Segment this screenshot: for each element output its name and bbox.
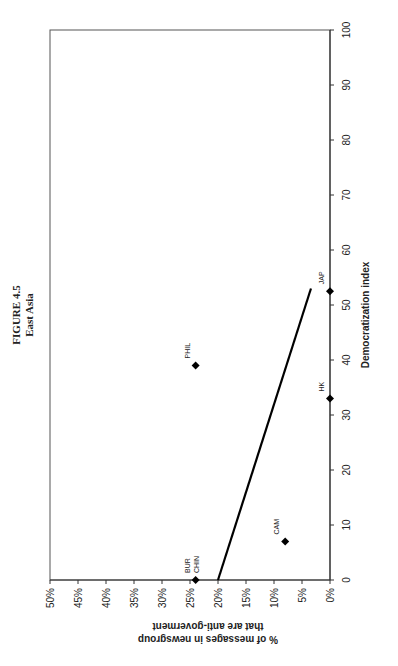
- data-point-marker: [192, 362, 200, 370]
- figure-subtitle-text: East Asia: [23, 293, 35, 337]
- data-point-marker: [281, 538, 289, 546]
- x-tick-label: 40: [341, 354, 352, 366]
- data-point-marker: [326, 395, 334, 403]
- data-point-label: BUR: [184, 558, 191, 573]
- x-tick-label: 60: [341, 244, 352, 256]
- x-tick-label: 0: [341, 577, 352, 583]
- data-point-marker: [192, 576, 200, 584]
- figure-label-text: FIGURE 4.5: [10, 285, 22, 345]
- x-tick-label: 20: [341, 464, 352, 476]
- data-point-marker: [326, 287, 334, 295]
- x-tick-label: 10: [341, 519, 352, 531]
- scatter-chart: 01020304050607080901000%5%10%15%20%25%30…: [0, 0, 398, 666]
- y-tick-label: 10%: [269, 588, 280, 608]
- x-tick-label: 70: [341, 189, 352, 201]
- y-tick-label: 0%: [325, 588, 336, 603]
- data-point-label: CAM: [273, 519, 280, 535]
- x-tick-label: 80: [341, 134, 352, 146]
- y-tick-label: 30%: [157, 588, 168, 608]
- y-tick-label: 15%: [241, 588, 252, 608]
- data-point-label: HK: [318, 381, 325, 391]
- y-tick-label: 35%: [129, 588, 140, 608]
- data-point-label: PHIL: [184, 343, 191, 359]
- data-point-label: JAP: [318, 271, 325, 284]
- trend-line: [218, 289, 311, 581]
- data-point-label: CHIN: [193, 556, 200, 573]
- plot-area: [50, 30, 330, 580]
- y-tick-label: 5%: [297, 588, 308, 603]
- y-tick-label: 50%: [45, 588, 56, 608]
- x-tick-label: 50: [341, 299, 352, 311]
- y-tick-label: 40%: [101, 588, 112, 608]
- x-tick-label: 90: [341, 79, 352, 91]
- figure: FIGURE 4.5 East Asia 0102030405060708090…: [0, 0, 398, 666]
- y-axis-title-line1: % of messages in newsgroup: [138, 634, 278, 645]
- x-tick-label: 100: [341, 21, 352, 38]
- y-tick-label: 20%: [213, 588, 224, 608]
- y-tick-label: 25%: [185, 588, 196, 608]
- y-tick-label: 45%: [73, 588, 84, 608]
- x-axis-title: Democratization index: [360, 261, 371, 368]
- x-tick-label: 30: [341, 409, 352, 421]
- y-axis-title-line2: that are anti-goverment: [152, 621, 264, 632]
